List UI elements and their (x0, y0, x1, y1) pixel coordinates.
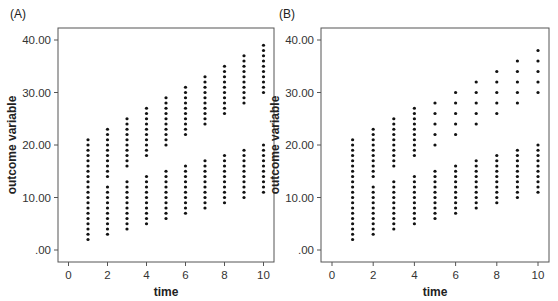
data-point (106, 191, 109, 194)
data-point (184, 164, 187, 167)
x-tick-label: 4 (143, 269, 150, 281)
data-point (262, 149, 265, 152)
data-point (86, 175, 89, 178)
panel-a: (A).0010.0020.0030.0040.000246810timeout… (5, 7, 274, 299)
data-point (223, 175, 226, 178)
data-point (184, 212, 187, 215)
data-point (145, 217, 148, 220)
data-point (184, 206, 187, 209)
data-point (433, 217, 436, 220)
data-point (454, 212, 457, 215)
data-point (454, 170, 457, 173)
data-point (164, 180, 167, 183)
data-point (392, 117, 395, 120)
data-point (433, 101, 436, 104)
data-point (495, 159, 498, 162)
data-point (184, 107, 187, 110)
data-point (495, 185, 498, 188)
data-point (516, 196, 519, 199)
x-tick-label: 8 (221, 269, 227, 281)
data-point (184, 175, 187, 178)
data-point (536, 170, 539, 173)
data-point (372, 201, 375, 204)
y-tick-label: .00 (35, 244, 51, 256)
data-point (86, 206, 89, 209)
data-point (106, 201, 109, 204)
x-tick-label: 10 (532, 269, 545, 281)
data-point (262, 91, 265, 94)
data-point (242, 70, 245, 73)
data-point (536, 59, 539, 62)
data-point (351, 138, 354, 141)
data-point (203, 185, 206, 188)
data-point (262, 159, 265, 162)
data-point (106, 185, 109, 188)
data-point (475, 170, 478, 173)
data-point (392, 185, 395, 188)
data-point (495, 170, 498, 173)
data-point (86, 164, 89, 167)
data-point (475, 201, 478, 204)
data-point (536, 91, 539, 94)
data-point (392, 201, 395, 204)
data-point (495, 80, 498, 83)
data-point (223, 164, 226, 167)
data-point (145, 138, 148, 141)
data-point (516, 59, 519, 62)
data-point (242, 175, 245, 178)
panel-label: (B) (279, 7, 295, 21)
y-axis-title: outcome variable (268, 95, 282, 194)
data-point (495, 191, 498, 194)
data-point (145, 117, 148, 120)
data-point (413, 212, 416, 215)
data-point (203, 201, 206, 204)
data-point (203, 122, 206, 125)
data-point (86, 233, 89, 236)
data-point (495, 196, 498, 199)
data-point (223, 96, 226, 99)
data-point (145, 212, 148, 215)
data-point (433, 170, 436, 173)
data-point (516, 154, 519, 157)
data-point (495, 164, 498, 167)
data-point (184, 101, 187, 104)
data-point (392, 133, 395, 136)
data-point (125, 206, 128, 209)
data-point (106, 212, 109, 215)
data-point (203, 170, 206, 173)
y-tick-label: 20.00 (22, 139, 51, 151)
data-point (203, 75, 206, 78)
data-point (242, 164, 245, 167)
data-point (203, 164, 206, 167)
data-point (475, 185, 478, 188)
data-point (203, 117, 206, 120)
data-point (372, 206, 375, 209)
y-tick-label: 10.00 (22, 192, 51, 204)
data-point (372, 159, 375, 162)
data-point (242, 159, 245, 162)
data-point (392, 217, 395, 220)
data-point (125, 222, 128, 225)
x-axis-title: time (154, 285, 179, 299)
data-point (203, 175, 206, 178)
data-point (223, 180, 226, 183)
data-point (242, 180, 245, 183)
data-point (145, 180, 148, 183)
data-point (203, 196, 206, 199)
data-point (125, 164, 128, 167)
x-axis-title: time (423, 285, 448, 299)
data-point (516, 149, 519, 152)
data-point (223, 170, 226, 173)
data-point (125, 180, 128, 183)
data-point (125, 138, 128, 141)
data-point (413, 154, 416, 157)
data-point (372, 212, 375, 215)
data-point (164, 138, 167, 141)
data-point (372, 170, 375, 173)
data-point (145, 222, 148, 225)
data-point (413, 191, 416, 194)
data-point (516, 101, 519, 104)
y-axis-title: outcome variable (5, 95, 19, 194)
data-point (242, 96, 245, 99)
data-point (454, 175, 457, 178)
